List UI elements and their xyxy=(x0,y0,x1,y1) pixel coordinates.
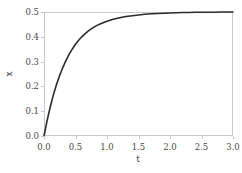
y-tick-label: 0.5 xyxy=(15,8,39,17)
y-tick-label: 0.1 xyxy=(15,107,39,116)
x-tick-mark xyxy=(233,136,234,139)
y-tick-label: 0.2 xyxy=(15,82,39,91)
y-tick-label: 0.0 xyxy=(15,132,39,141)
y-tick-mark xyxy=(41,37,44,38)
x-tick-mark xyxy=(139,136,140,139)
y-tick-label: 0.4 xyxy=(15,33,39,42)
x-tick-label: 0.0 xyxy=(37,143,51,152)
x-tick-label: 2.0 xyxy=(163,143,177,152)
x-tick-label: 1.5 xyxy=(132,143,146,152)
y-tick-mark xyxy=(41,111,44,112)
series-line xyxy=(44,12,233,136)
x-tick-mark xyxy=(107,136,108,139)
y-tick-label: 0.3 xyxy=(15,57,39,66)
y-tick-mark xyxy=(41,86,44,87)
x-tick-mark xyxy=(170,136,171,139)
data-curve xyxy=(44,12,233,136)
x-tick-label: 3.0 xyxy=(226,143,240,152)
x-tick-mark xyxy=(202,136,203,139)
y-tick-mark xyxy=(41,12,44,13)
x-tick-label: 1.0 xyxy=(100,143,114,152)
x-axis-label: t xyxy=(136,155,140,164)
y-tick-mark xyxy=(41,62,44,63)
x-tick-mark xyxy=(76,136,77,139)
y-axis-label: x xyxy=(5,71,14,76)
x-tick-label: 2.5 xyxy=(195,143,209,152)
chart-figure: 0.00.10.20.30.40.5 0.00.51.01.52.02.53.0… xyxy=(0,0,242,173)
x-tick-mark xyxy=(44,136,45,139)
x-tick-label: 0.5 xyxy=(69,143,83,152)
